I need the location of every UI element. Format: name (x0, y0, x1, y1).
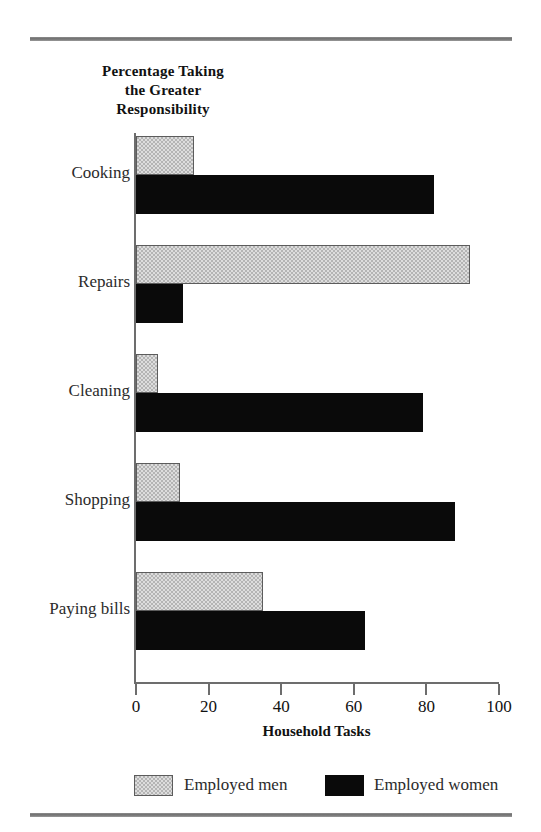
x-tick-40 (280, 684, 282, 695)
x-tick-label-60: 60 (345, 697, 362, 717)
bar-cooking-employed-men (136, 136, 194, 175)
category-label-repairs: Repairs (78, 272, 130, 292)
bottom-horizontal-rule (30, 813, 512, 817)
category-label-shopping: Shopping (65, 490, 130, 510)
x-tick-label-100: 100 (486, 697, 512, 717)
bar-shopping-employed-men (136, 463, 180, 502)
bar-paying-bills-employed-men (136, 572, 263, 611)
category-label-paying-bills: Paying bills (49, 599, 130, 619)
legend-swatch-employed-women (325, 775, 364, 796)
category-label-cooking: Cooking (71, 163, 130, 183)
x-tick-20 (208, 684, 210, 695)
legend-label-employed-men: Employed men (184, 774, 287, 796)
bar-cleaning-employed-men (136, 354, 158, 393)
x-axis-title: Household Tasks (134, 723, 499, 740)
bar-cleaning-employed-women (136, 393, 423, 432)
bar-repairs-employed-women (136, 284, 183, 323)
legend-label-employed-women: Employed women (374, 774, 498, 796)
x-tick-label-40: 40 (273, 697, 290, 717)
x-tick-label-20: 20 (200, 697, 217, 717)
x-tick-label-80: 80 (418, 697, 435, 717)
bar-cooking-employed-women (136, 175, 434, 214)
x-tick-80 (425, 684, 427, 695)
bar-repairs-employed-men (136, 245, 470, 284)
bar-chart-plot-area: CookingRepairsCleaningShoppingPaying bil… (0, 0, 541, 832)
x-axis-line (134, 682, 499, 684)
x-tick-60 (353, 684, 355, 695)
x-tick-100 (498, 684, 500, 695)
category-label-cleaning: Cleaning (69, 381, 130, 401)
x-tick-label-0: 0 (132, 697, 141, 717)
x-tick-0 (135, 684, 137, 695)
bar-shopping-employed-women (136, 502, 455, 541)
bar-paying-bills-employed-women (136, 611, 365, 650)
legend-swatch-employed-men (134, 775, 173, 796)
